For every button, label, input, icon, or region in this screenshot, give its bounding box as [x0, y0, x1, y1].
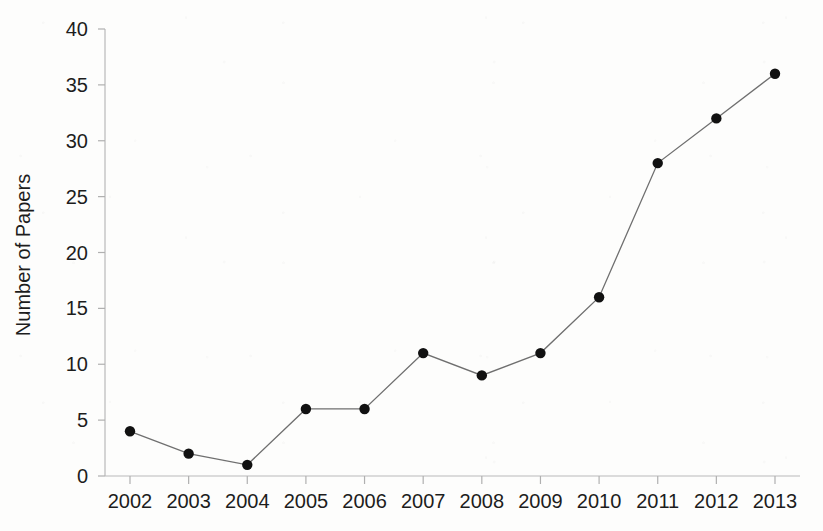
y-tick-label: 0	[77, 465, 88, 487]
y-tick-marks	[98, 29, 105, 476]
x-tick-label: 2005	[284, 490, 329, 512]
x-axis: 2002200320042005200620072008200920102011…	[105, 476, 800, 512]
data-point-marker	[770, 69, 780, 79]
data-point-marker	[242, 460, 252, 470]
x-tick-label: 2012	[694, 490, 739, 512]
y-tick-label: 10	[66, 353, 88, 375]
data-point-marker	[301, 404, 311, 414]
chart-page: 0510152025303540 20022003200420052006200…	[0, 0, 823, 531]
y-tick-label: 25	[66, 186, 88, 208]
y-tick-label: 40	[66, 18, 88, 40]
line-chart: 0510152025303540 20022003200420052006200…	[0, 0, 823, 531]
data-point-marker	[711, 113, 721, 123]
data-point-marker	[594, 292, 604, 302]
x-tick-label: 2006	[342, 490, 387, 512]
y-axis: 0510152025303540	[66, 18, 105, 487]
plot-area	[125, 69, 780, 471]
x-tick-label: 2003	[166, 490, 211, 512]
data-point-marker	[535, 348, 545, 358]
data-point-marker	[183, 448, 193, 458]
x-tick-label: 2007	[401, 490, 446, 512]
data-point-marker	[653, 158, 663, 168]
y-tick-label: 20	[66, 242, 88, 264]
data-point-marker	[125, 426, 135, 436]
x-tick-label: 2009	[518, 490, 563, 512]
y-tick-label: 15	[66, 297, 88, 319]
x-tick-label: 2010	[577, 490, 622, 512]
y-tick-label: 5	[77, 409, 88, 431]
y-tick-labels: 0510152025303540	[66, 18, 88, 487]
y-tick-label: 30	[66, 130, 88, 152]
y-axis-title: Number of Papers	[12, 174, 34, 336]
x-tick-label: 2008	[460, 490, 505, 512]
y-tick-label: 35	[66, 74, 88, 96]
x-tick-label: 2004	[225, 490, 270, 512]
x-tick-marks	[130, 476, 775, 484]
series-markers	[125, 69, 780, 471]
x-tick-label: 2013	[753, 490, 798, 512]
data-point-marker	[359, 404, 369, 414]
x-tick-labels: 2002200320042005200620072008200920102011…	[108, 490, 798, 512]
x-tick-label: 2002	[108, 490, 153, 512]
series-line-number-of-papers	[130, 74, 775, 465]
data-point-marker	[418, 348, 428, 358]
x-tick-label: 2011	[636, 490, 679, 512]
data-point-marker	[477, 370, 487, 380]
